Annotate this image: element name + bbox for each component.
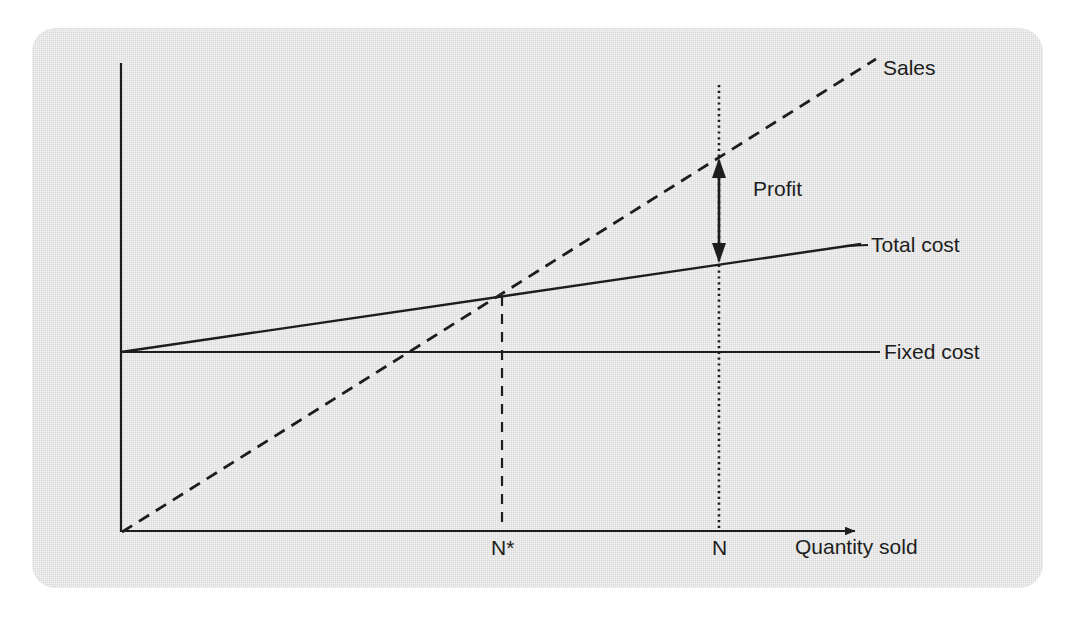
total-cost-line bbox=[121, 244, 861, 352]
profit-arrow-head-up bbox=[712, 158, 726, 178]
break-even-chart-graphic bbox=[0, 0, 1084, 620]
x-tick-label-breakeven-quantity: N* bbox=[491, 537, 514, 558]
series-label-fixed-cost: Fixed cost bbox=[884, 341, 980, 362]
annotation-label-profit: Profit bbox=[753, 178, 802, 199]
x-axis-title: Quantity sold bbox=[795, 536, 918, 557]
figure-root: Sales Profit Total cost Fixed cost N* N … bbox=[0, 0, 1084, 620]
series-label-total-cost: Total cost bbox=[871, 234, 960, 255]
series-label-sales: Sales bbox=[883, 57, 936, 78]
sales-line bbox=[122, 59, 876, 532]
profit-arrow-head-down bbox=[712, 243, 726, 263]
total-cost-leader-line bbox=[845, 245, 868, 246]
x-tick-label-target-quantity: N bbox=[712, 537, 727, 558]
